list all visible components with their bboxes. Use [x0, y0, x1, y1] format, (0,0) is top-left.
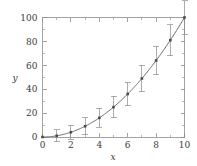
x-tick-label: 2 — [68, 140, 74, 150]
data-marker — [183, 16, 186, 19]
x-tick-label: 4 — [96, 140, 102, 150]
y-tick-label: 80 — [26, 37, 38, 47]
chart-figure: 0246810 020406080100 x y — [0, 0, 197, 166]
data-marker — [84, 125, 87, 128]
x-tick-label: 10 — [179, 140, 191, 150]
data-marker — [169, 39, 172, 42]
y-axis-title: y — [11, 73, 18, 83]
data-marker — [70, 131, 73, 134]
y-tick-label: 0 — [32, 132, 38, 142]
y-tick-label: 20 — [26, 108, 38, 118]
x-tick-label: 8 — [153, 140, 159, 150]
data-marker — [98, 117, 101, 120]
data-marker — [55, 135, 58, 138]
data-marker — [141, 77, 144, 80]
x-tick-label: 6 — [125, 140, 131, 150]
data-marker — [126, 93, 129, 96]
data-marker — [112, 106, 115, 109]
data-marker — [155, 59, 158, 62]
scatter-plot-with-error-bars: 0246810 020406080100 x y — [0, 0, 197, 166]
x-axis-title: x — [110, 152, 115, 162]
data-marker — [41, 136, 44, 139]
x-tick-label: 0 — [40, 140, 46, 150]
y-tick-label: 40 — [26, 84, 38, 94]
y-tick-label: 100 — [20, 13, 37, 23]
y-tick-label: 60 — [26, 61, 38, 71]
